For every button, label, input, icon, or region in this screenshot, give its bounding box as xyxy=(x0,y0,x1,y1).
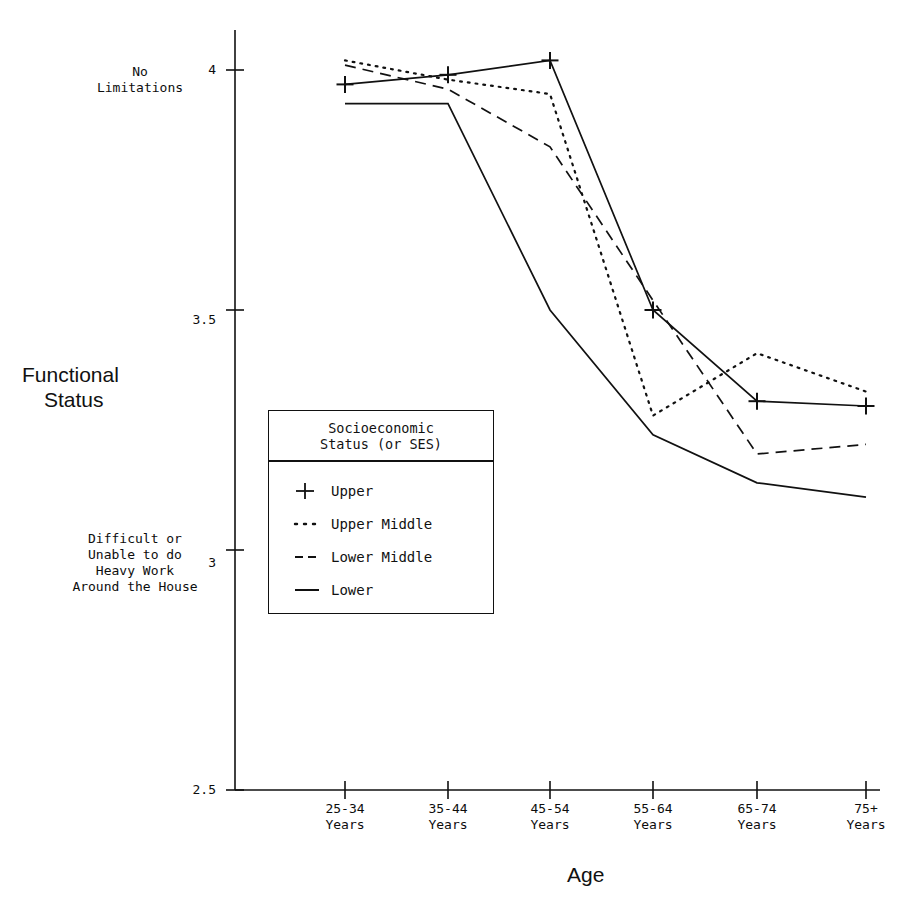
solid-line-key xyxy=(293,581,327,599)
legend-item-upper[interactable]: Upper xyxy=(293,474,493,507)
series-line-upper-middle xyxy=(345,60,866,415)
x-tick-label-unit-3: Years xyxy=(593,817,713,832)
y-axis-title-line1: Functional xyxy=(22,362,119,387)
series-line-upper xyxy=(345,60,866,406)
annotation-difficult-line4: Around the House xyxy=(60,579,210,594)
data-point-marker-plus xyxy=(858,398,875,415)
dashed-line-key xyxy=(293,548,327,566)
dotted-line-key xyxy=(293,515,327,533)
legend-item-label: Lower Middle xyxy=(331,549,432,565)
annotation-difficult-line2: Unable to do xyxy=(60,547,210,562)
x-tick-label-range-3: 55-64 xyxy=(593,801,713,816)
legend-title: Socioeconomic Status (or SES) xyxy=(269,411,493,462)
legend-item-label: Upper Middle xyxy=(331,516,432,532)
x-tick-label-unit-4: Years xyxy=(697,817,817,832)
legend-item-upper-middle[interactable]: Upper Middle xyxy=(293,507,493,540)
data-point-marker-plus xyxy=(337,76,354,93)
annotation-difficult-line3: Heavy Work xyxy=(60,563,210,578)
legend-item-lower[interactable]: Lower xyxy=(293,573,493,606)
series-line-lower-middle xyxy=(345,65,866,454)
annotation-no-limitations-line2: Limitations xyxy=(80,80,200,95)
x-tick-label-range-4: 65-74 xyxy=(697,801,817,816)
legend-title-line1: Socioeconomic xyxy=(328,420,434,436)
legend-items: UpperUpper MiddleLower MiddleLower xyxy=(269,462,493,606)
legend-item-label: Upper xyxy=(331,483,373,499)
legend-title-line2: Status (or SES) xyxy=(320,436,442,452)
plus-solid-line-key xyxy=(293,482,327,500)
y-axis-title-line2: Status xyxy=(44,387,104,412)
y-tick-label-3-5: 3.5 xyxy=(170,312,216,327)
x-tick-label-range-2: 45-54 xyxy=(490,801,610,816)
x-tick-label-range-5: 75+ xyxy=(806,801,906,816)
data-point-marker-plus xyxy=(542,52,559,69)
legend: Socioeconomic Status (or SES) UpperUpper… xyxy=(268,410,494,614)
x-axis-title: Age xyxy=(567,862,604,887)
legend-item-lower-middle[interactable]: Lower Middle xyxy=(293,540,493,573)
annotation-no-limitations-line1: No xyxy=(80,64,200,79)
chart-container: 4 3.5 3 2.5 No Limitations Difficult or … xyxy=(0,0,906,919)
annotation-difficult-line1: Difficult or xyxy=(60,531,210,546)
x-tick-label-unit-5: Years xyxy=(806,817,906,832)
legend-item-label: Lower xyxy=(331,582,373,598)
x-tick-label-unit-0: Years xyxy=(285,817,405,832)
x-tick-label-unit-2: Years xyxy=(490,817,610,832)
y-tick-label-2-5: 2.5 xyxy=(170,782,216,797)
x-tick-label-range-0: 25-34 xyxy=(285,801,405,816)
